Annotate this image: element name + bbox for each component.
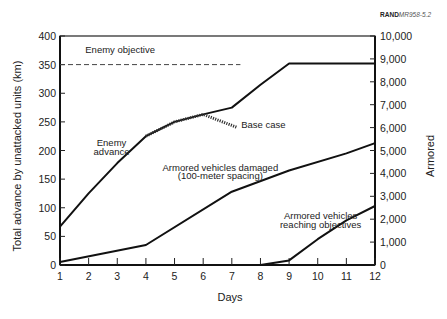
y-tick-label-right: 1,000 [380, 236, 406, 248]
x-tick-label: 1 [57, 270, 63, 282]
y-axis-right-label: Armored [424, 116, 436, 196]
y-tick-label-left: 300 [38, 87, 56, 99]
y-axis-left-label: Total advance by unattacked units (km) [11, 31, 23, 281]
chart-annotation: reaching objectives [280, 219, 362, 230]
x-tick-label: 8 [258, 270, 264, 282]
x-tick-label: 10 [312, 270, 324, 282]
y-tick-label-left: 200 [38, 145, 56, 157]
y-tick-label-left: 150 [38, 173, 56, 185]
x-tick-label: 11 [341, 270, 352, 282]
x-tick-label: 3 [114, 270, 120, 282]
y-tick-label-left: 400 [38, 30, 56, 42]
y-tick-label-right: 7,000 [380, 99, 406, 111]
chart-annotation: advance [94, 146, 130, 157]
x-tick-label: 6 [200, 270, 206, 282]
x-tick-label: 7 [229, 270, 235, 282]
x-tick-label: 5 [172, 270, 178, 282]
y-tick-label-right: 3,000 [380, 190, 406, 202]
chart-annotation: Enemy objective [85, 44, 155, 55]
x-tick-label: 4 [143, 270, 149, 282]
chart-annotation: Base case [241, 119, 285, 130]
y-tick-label-right: 0 [380, 259, 386, 271]
x-tick-label: 9 [286, 270, 292, 282]
y-tick-label-right: 5,000 [380, 145, 406, 157]
y-tick-label-left: 350 [38, 59, 56, 71]
y-tick-label-left: 100 [38, 202, 56, 214]
y-tick-label-right: 6,000 [380, 122, 406, 134]
y-tick-label-right: 8,000 [380, 76, 406, 88]
x-tick-label: 12 [369, 270, 381, 282]
y-tick-label-right: 2,000 [380, 213, 406, 225]
y-tick-label-left: 250 [38, 116, 56, 128]
y-tick-label-right: 10,000 [380, 30, 412, 42]
line-chart: 05010015020025030035040001,0002,0003,000… [0, 0, 447, 319]
y-tick-label-left: 0 [50, 259, 56, 271]
y-tick-label-right: 4,000 [380, 167, 406, 179]
y-tick-label-left: 50 [44, 230, 56, 242]
chart-annotation: (100-meter spacing) [178, 170, 263, 181]
x-tick-label: 2 [86, 270, 92, 282]
x-axis-label: Days [200, 291, 260, 303]
y-tick-label-right: 9,000 [380, 53, 406, 65]
